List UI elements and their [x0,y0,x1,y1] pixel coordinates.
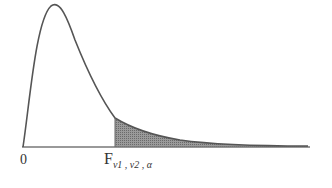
density-curve [23,5,308,147]
critical-value-main: F [104,150,113,167]
critical-value-subscript: ν1 , ν2 , α [113,159,152,170]
origin-label: 0 [20,152,27,168]
f-distribution-plot [0,0,332,188]
critical-value-label: Fν1 , ν2 , α [104,150,152,170]
